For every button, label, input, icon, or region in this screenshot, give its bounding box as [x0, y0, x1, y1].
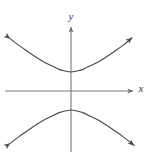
- x-axis-label: x: [138, 82, 144, 94]
- y-axis-label: y: [68, 10, 74, 22]
- figure-background: [0, 0, 152, 164]
- plot-canvas: y x: [0, 0, 152, 164]
- hyperbola-graph-figure: y x: [0, 0, 152, 164]
